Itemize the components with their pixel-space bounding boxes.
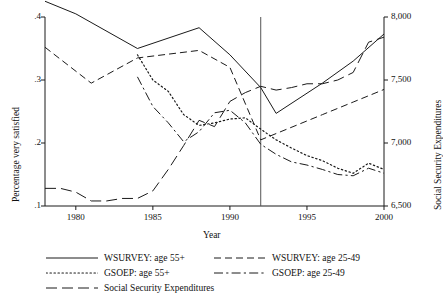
legend-label: WSURVEY: age 25-49 [272,253,360,263]
y-axis-left-tick-label: .3 [27,74,41,84]
y-axis-left-tick-label: .2 [27,137,41,147]
x-axis-tick-label: 1990 [217,212,243,222]
legend-label: Social Security Expenditures [104,283,214,293]
y-axis-right-title: Social Security Expenditures [433,100,443,210]
legend-label: GSOEP: age 25-49 [272,268,345,278]
legend-swatch-dashed [214,253,266,263]
chart-legend: WSURVEY: age 55+WSURVEY: age 25-49GSOEP:… [46,250,436,295]
x-axis-title: Year [203,230,221,240]
y-axis-right-tick-label: 6,500 [391,200,411,210]
legend-item-gsoep-55plus: GSOEP: age 55+ [46,268,214,278]
y-axis-right-tick-label: 7,000 [391,137,411,147]
legend-swatch-dashdot [214,268,266,278]
y-axis-left-tick-label: .4 [27,11,41,21]
legend-item-gsoep-25-49: GSOEP: age 25-49 [214,268,345,278]
y-axis-left-title: Percentage very satisfied [11,107,21,202]
series-line-0 [45,1,384,113]
x-axis-tick-label: 1980 [63,212,89,222]
y-axis-right-tick-label: 8,000 [391,11,411,21]
legend-label: GSOEP: age 55+ [104,268,170,278]
y-axis-right-tick-label: 7,500 [391,74,411,84]
legend-item-wsurvey-25-49: WSURVEY: age 25-49 [214,253,360,263]
legend-swatch-longdash [46,283,98,293]
series-line-4 [45,37,384,201]
legend-item-wsurvey-55plus: WSURVEY: age 55+ [46,253,214,263]
legend-swatch-dotted [46,268,98,278]
y-axis-left-tick-label: .1 [27,200,41,210]
legend-row: WSURVEY: age 55+WSURVEY: age 25-49 [46,250,436,265]
x-axis-tick-label: 1995 [294,212,320,222]
axis-frame [45,17,384,206]
legend-row: Social Security Expenditures [46,280,436,295]
legend-swatch-solid [46,253,98,263]
legend-item-social-security: Social Security Expenditures [46,283,214,293]
legend-row: GSOEP: age 55+GSOEP: age 25-49 [46,265,436,280]
x-axis-tick-label: 2000 [371,212,397,222]
x-axis-tick-label: 1985 [140,212,166,222]
legend-label: WSURVEY: age 55+ [104,253,185,263]
